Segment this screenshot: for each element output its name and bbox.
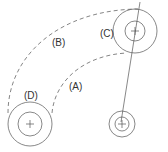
- diagram-svg: (C) (B) (D) (A): [0, 0, 168, 152]
- label-b: (B): [52, 37, 65, 48]
- label-a: (A): [69, 81, 82, 92]
- circle-d: [8, 102, 52, 146]
- connecting-line: [121, 2, 140, 122]
- label-c: (C): [100, 28, 114, 39]
- arc-a-dashed: [52, 53, 127, 113]
- circle-c: [113, 9, 157, 53]
- label-d: (D): [24, 90, 38, 101]
- diagram-canvas: (C) (B) (D) (A): [0, 0, 168, 152]
